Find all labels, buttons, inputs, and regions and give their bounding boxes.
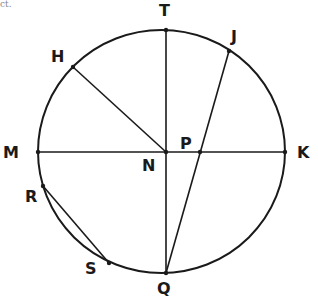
point-J bbox=[227, 49, 231, 53]
label-T: T bbox=[159, 1, 170, 20]
cropped-text-fragment: ct. bbox=[0, 0, 12, 9]
point-Q bbox=[164, 271, 168, 275]
labels: TJHMNPKRSQ bbox=[3, 1, 310, 298]
point-H bbox=[71, 65, 75, 69]
point-S bbox=[107, 261, 111, 265]
label-Q: Q bbox=[157, 279, 171, 298]
point-R bbox=[41, 184, 45, 188]
circle-diagram: ct. TJHMNPKRSQ bbox=[0, 0, 318, 301]
label-S: S bbox=[85, 259, 97, 278]
label-K: K bbox=[297, 143, 310, 162]
point-N bbox=[164, 150, 168, 154]
segment-radius-NH bbox=[73, 67, 166, 152]
label-H: H bbox=[51, 47, 64, 66]
point-P bbox=[198, 150, 202, 154]
label-P: P bbox=[180, 134, 192, 153]
label-J: J bbox=[230, 27, 237, 46]
segment-chord-JQ bbox=[166, 51, 229, 273]
label-M: M bbox=[3, 143, 19, 162]
label-R: R bbox=[25, 187, 37, 206]
segment-chord-RS bbox=[43, 186, 109, 263]
point-K bbox=[283, 150, 287, 154]
point-T bbox=[164, 28, 168, 32]
point-M bbox=[36, 150, 40, 154]
label-N: N bbox=[142, 156, 155, 175]
